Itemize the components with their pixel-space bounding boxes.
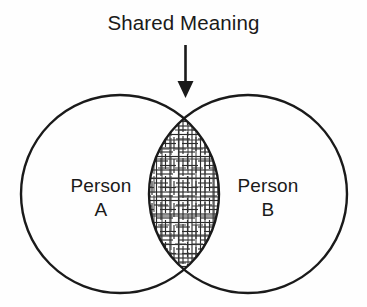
venn-diagram-canvas: Shared Meaning Person A Person B	[0, 0, 367, 307]
label-person-a-line1: Person	[71, 175, 132, 196]
label-person-a-line2: A	[95, 199, 108, 220]
diagram-title: Shared Meaning	[108, 11, 260, 34]
label-person-b-line1: Person	[238, 175, 299, 196]
label-person-b-line2: B	[262, 199, 275, 220]
venn-diagram: Shared Meaning Person A Person B	[0, 0, 367, 307]
intersection-region	[150, 118, 222, 272]
